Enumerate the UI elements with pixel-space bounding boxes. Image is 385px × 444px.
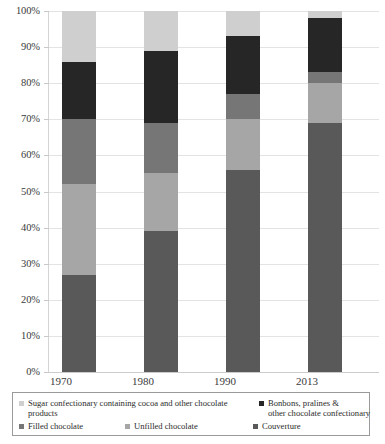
- bar-segment-2013-couverture[interactable]: [308, 123, 342, 372]
- bar-1990[interactable]: [226, 11, 260, 372]
- bar-segment-2013-unfilled-chocolate[interactable]: [308, 83, 342, 123]
- bar-1980[interactable]: [144, 11, 178, 372]
- y-tickmark-70: [44, 119, 49, 120]
- y-tickmark-100: [44, 11, 49, 12]
- y-tick-label-60: 60%: [0, 150, 40, 160]
- bar-segment-1980-sugar-confectionary[interactable]: [144, 11, 178, 51]
- y-tickmark-50: [44, 192, 49, 193]
- x-axis: 1970 1980 1990 2013: [48, 374, 378, 392]
- bar-1970[interactable]: [62, 11, 96, 372]
- legend-swatch-icon-couverture: [253, 424, 258, 429]
- legend-item-couverture: Couverture: [253, 421, 353, 431]
- y-tick-label-20: 20%: [0, 295, 40, 305]
- bar-segment-2013-filled-chocolate[interactable]: [308, 72, 342, 83]
- bar-segment-1970-bonbons-pralines[interactable]: [62, 62, 96, 120]
- bar-segment-1990-bonbons-pralines[interactable]: [226, 36, 260, 94]
- legend-item-unfilled-chocolate: Unfilled chocolate: [125, 421, 235, 431]
- y-tickmark-60: [44, 155, 49, 156]
- x-tick-label-1980: 1980: [113, 374, 173, 388]
- bar-segment-2013-sugar-confectionary[interactable]: [308, 11, 342, 18]
- stacked-bar-chart: 100% 90% 80% 70% 60% 50% 40% 30% 20% 10%…: [0, 0, 385, 444]
- legend-item-filled-chocolate: Filled chocolate: [19, 421, 119, 431]
- legend-swatch-icon-unfilled: [125, 424, 130, 429]
- legend-swatch-icon-bonbons: [259, 401, 264, 406]
- y-tickmark-10: [44, 336, 49, 337]
- chart-legend: Sugar confectionary containing cocoa and…: [12, 392, 370, 436]
- bar-segment-1970-sugar-confectionary[interactable]: [62, 11, 96, 62]
- y-tick-label-90: 90%: [0, 42, 40, 52]
- bar-2013[interactable]: [308, 11, 342, 372]
- bar-segment-1980-couverture[interactable]: [144, 231, 178, 372]
- y-tickmark-80: [44, 83, 49, 84]
- y-tick-label-50: 50%: [0, 187, 40, 197]
- y-axis: 100% 90% 80% 70% 60% 50% 40% 30% 20% 10%…: [0, 0, 44, 390]
- bar-segment-1980-unfilled-chocolate[interactable]: [144, 173, 178, 231]
- y-tickmark-0: [44, 372, 49, 373]
- legend-swatch-icon-filled: [19, 424, 24, 429]
- y-tick-label-80: 80%: [0, 78, 40, 88]
- x-tick-label-2013: 2013: [277, 374, 337, 388]
- y-tickmark-90: [44, 47, 49, 48]
- x-tick-label-1990: 1990: [195, 374, 255, 388]
- y-tickmark-30: [44, 264, 49, 265]
- y-tick-label-10: 10%: [0, 331, 40, 341]
- gridline-0: [49, 372, 379, 373]
- bar-segment-1990-couverture[interactable]: [226, 170, 260, 372]
- legend-label-sugar: Sugar confectionary containing cocoa and…: [28, 398, 251, 419]
- bar-segment-1990-filled-chocolate[interactable]: [226, 94, 260, 119]
- legend-label-bonbons: Bonbons, pralines & other chocolate conf…: [268, 398, 370, 419]
- bar-segment-1980-filled-chocolate[interactable]: [144, 123, 178, 174]
- y-tick-label-100: 100%: [0, 6, 40, 16]
- legend-label-couverture: Couverture: [262, 421, 301, 431]
- legend-swatch-icon-sugar: [19, 401, 24, 406]
- legend-label-filled: Filled chocolate: [28, 421, 83, 431]
- bar-segment-1970-filled-chocolate[interactable]: [62, 119, 96, 184]
- y-tick-label-70: 70%: [0, 114, 40, 124]
- bar-segment-1990-unfilled-chocolate[interactable]: [226, 119, 260, 170]
- legend-item-bonbons: Bonbons, pralines & other chocolate conf…: [259, 398, 371, 419]
- y-tick-label-30: 30%: [0, 259, 40, 269]
- bar-segment-1990-sugar-confectionary[interactable]: [226, 11, 260, 36]
- y-tick-label-40: 40%: [0, 223, 40, 233]
- plot-wrapper: 100% 90% 80% 70% 60% 50% 40% 30% 20% 10%…: [0, 0, 385, 390]
- bar-segment-1970-unfilled-chocolate[interactable]: [62, 184, 96, 274]
- plot-area: [48, 11, 379, 372]
- bar-segment-1980-bonbons-pralines[interactable]: [144, 51, 178, 123]
- y-tickmark-20: [44, 300, 49, 301]
- legend-label-unfilled: Unfilled chocolate: [134, 421, 198, 431]
- legend-item-sugar-confectionary: Sugar confectionary containing cocoa and…: [19, 398, 251, 419]
- y-tickmark-40: [44, 228, 49, 229]
- bar-segment-1970-couverture[interactable]: [62, 275, 96, 372]
- x-tick-label-1970: 1970: [31, 374, 91, 388]
- bar-segment-2013-bonbons-pralines[interactable]: [308, 18, 342, 72]
